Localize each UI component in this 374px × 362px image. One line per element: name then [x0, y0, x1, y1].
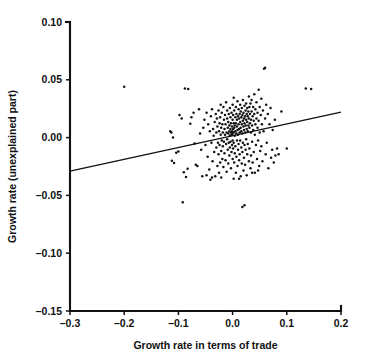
data-point	[238, 117, 241, 120]
data-point	[248, 127, 251, 129]
data-point	[227, 162, 230, 165]
data-point	[232, 142, 235, 145]
data-point	[258, 165, 261, 168]
data-point	[204, 144, 207, 147]
data-point	[229, 107, 232, 110]
data-point	[231, 125, 234, 128]
scatter-series	[123, 66, 312, 208]
data-point	[258, 106, 261, 109]
data-point	[248, 117, 251, 120]
data-point	[186, 168, 189, 171]
data-point	[239, 121, 242, 124]
x-tick-label: –0.1	[168, 317, 189, 329]
data-point	[228, 113, 231, 116]
data-point	[229, 128, 232, 131]
data-point	[221, 112, 224, 115]
data-point	[224, 133, 227, 136]
data-point	[233, 109, 236, 112]
data-point	[237, 143, 240, 146]
data-point	[241, 151, 244, 154]
data-point	[224, 159, 227, 162]
data-point	[239, 175, 242, 178]
data-point	[181, 201, 184, 204]
data-point	[233, 127, 236, 129]
data-point	[266, 142, 269, 145]
data-point	[230, 151, 233, 154]
data-point	[249, 167, 252, 170]
plot-canvas: 0.100.050.00–0.05–0.10–0.15–0.3–0.2–0.10…	[0, 0, 374, 362]
data-point	[235, 172, 238, 175]
data-point	[221, 123, 224, 126]
y-tick-label: –0.05	[36, 189, 62, 201]
data-point	[267, 167, 270, 170]
data-point	[171, 159, 174, 162]
data-point	[247, 124, 250, 127]
x-tick-label: –0.2	[114, 317, 135, 329]
data-point	[255, 101, 258, 104]
data-point	[236, 118, 239, 121]
data-point	[211, 176, 214, 179]
data-point	[250, 99, 253, 102]
data-point	[223, 152, 226, 155]
data-point	[243, 129, 246, 132]
data-point	[242, 112, 245, 115]
data-point	[265, 103, 268, 106]
data-point	[225, 143, 228, 146]
data-point	[227, 121, 230, 124]
data-point	[250, 118, 253, 121]
data-point	[215, 131, 218, 134]
data-point	[175, 151, 178, 154]
data-point	[252, 106, 255, 109]
data-point	[206, 155, 209, 158]
data-point	[235, 113, 238, 116]
data-point	[218, 130, 221, 133]
data-point	[198, 108, 201, 111]
data-point	[217, 153, 220, 156]
data-point	[200, 148, 203, 151]
data-point	[242, 169, 245, 172]
data-point	[214, 175, 217, 178]
data-point	[260, 98, 263, 101]
data-point	[256, 158, 259, 161]
data-point	[231, 103, 234, 106]
data-point	[250, 110, 253, 113]
data-point	[246, 153, 249, 156]
y-tick-label: –0.15	[36, 305, 62, 317]
data-point	[264, 66, 267, 69]
data-point	[254, 172, 257, 175]
data-point	[237, 115, 240, 118]
data-point	[192, 112, 195, 115]
data-point	[229, 146, 232, 149]
data-point	[225, 101, 228, 104]
data-point	[245, 174, 248, 177]
data-point	[242, 99, 245, 102]
data-point	[245, 118, 248, 121]
data-point	[256, 112, 259, 115]
data-point	[203, 118, 206, 121]
data-point	[210, 115, 213, 118]
data-point	[177, 150, 180, 153]
data-point	[241, 114, 244, 117]
data-point	[211, 160, 214, 163]
y-tick-label: –0.10	[36, 247, 62, 259]
data-point	[251, 115, 254, 118]
data-point	[305, 87, 308, 90]
data-point	[248, 95, 251, 98]
data-point	[219, 116, 222, 119]
data-point	[245, 113, 248, 116]
data-point	[180, 117, 183, 120]
data-point	[231, 139, 234, 142]
data-point	[196, 165, 199, 168]
data-point	[243, 157, 246, 160]
data-point	[226, 109, 229, 112]
data-point	[251, 124, 254, 127]
data-point	[173, 162, 176, 165]
data-point	[264, 117, 267, 120]
data-point	[218, 122, 221, 125]
data-point	[241, 162, 244, 165]
data-point	[260, 114, 263, 117]
data-point	[236, 165, 239, 168]
data-point	[229, 116, 232, 119]
data-point	[242, 125, 245, 128]
data-point	[215, 113, 218, 116]
